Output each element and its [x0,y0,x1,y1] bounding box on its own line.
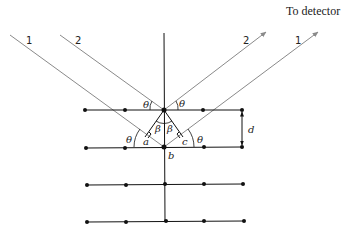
theta-arc-lower-left [134,129,140,147]
beta-label-1: β [154,123,161,134]
theta-label-3: θ [126,134,132,145]
incident-rays [10,35,164,147]
spacing-label-d: d [248,124,254,135]
reflected-ray-2-label: 2 [243,35,249,46]
reflected-ray-1-label: 1 [295,35,301,46]
theta-label-4: θ [197,134,203,145]
detector-label: To detector [286,4,340,18]
theta-arc-upper-right [176,101,178,110]
incident-ray-1-label: 1 [26,35,32,46]
bragg-diagram: To detector 1 2 2 1 [0,0,341,235]
theta-arc-lower-right [188,129,194,147]
theta-label-2: θ [179,98,185,109]
point-label-a: a [143,136,149,147]
theta-label-1: θ [143,99,149,110]
normal-line [164,33,165,222]
reflected-ray-1 [164,32,318,147]
incident-ray-2-label: 2 [75,35,81,46]
reflected-rays [164,32,318,147]
point-label-b: b [168,150,174,161]
incident-ray-1 [10,35,164,147]
point-label-c: c [182,136,188,147]
beta-label-2: β [166,123,173,134]
theta-arc-upper-left [150,101,152,110]
